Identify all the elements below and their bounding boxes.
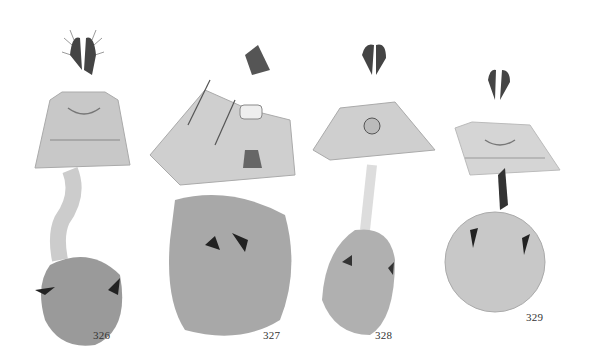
figure-plate: 326 327 328 329	[0, 0, 591, 362]
specimen-327	[150, 45, 295, 336]
figure-label-329: 329	[526, 311, 543, 323]
figure-label-328: 328	[375, 329, 392, 341]
specimen-328	[313, 44, 435, 335]
figure-label-327: 327	[263, 329, 280, 341]
specimen-329	[445, 70, 560, 312]
figure-label-326: 326	[93, 329, 110, 341]
specimen-drawings	[0, 0, 591, 362]
specimen-326	[35, 30, 130, 346]
